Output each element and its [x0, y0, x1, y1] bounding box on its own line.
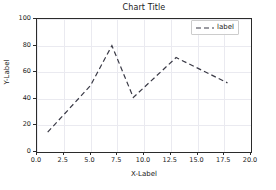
- x-tick-label: 10.0: [128, 156, 158, 164]
- plot-area: [36, 18, 252, 153]
- x-tick-label: 7.5: [101, 156, 131, 164]
- x-tick-label: 17.5: [208, 156, 238, 164]
- x-tick-label: 20.0: [235, 156, 265, 164]
- x-axis-label: X-Label: [36, 170, 252, 178]
- x-tick-mark: [143, 152, 144, 155]
- y-tick-label: 100: [1, 14, 31, 22]
- series-layer: [37, 19, 251, 152]
- x-tick-label: 2.5: [48, 156, 78, 164]
- x-tick-label: 0.0: [21, 156, 51, 164]
- x-tick-mark: [170, 152, 171, 155]
- page-title: Chart Title: [36, 3, 252, 12]
- dashed-line-sample-icon: [196, 25, 214, 31]
- x-tick-mark: [36, 152, 37, 155]
- x-tick-mark: [197, 152, 198, 155]
- y-tick-label: 20: [1, 120, 31, 128]
- x-tick-label: 12.5: [155, 156, 185, 164]
- y-tick-mark: [33, 124, 36, 125]
- y-tick-label: 0: [1, 147, 31, 155]
- chart-figure: Chart Title 020406080100 0.02.55.07.510.…: [0, 0, 276, 190]
- chart-legend: label: [191, 20, 239, 35]
- x-tick-mark: [90, 152, 91, 155]
- y-tick-mark: [33, 71, 36, 72]
- x-tick-label: 5.0: [75, 156, 105, 164]
- x-tick-mark: [223, 152, 224, 155]
- y-axis-label: Y-Label: [3, 37, 11, 107]
- series-line: [48, 46, 228, 132]
- gridline-vertical: [251, 19, 252, 152]
- x-tick-mark: [116, 152, 117, 155]
- y-tick-mark: [33, 18, 36, 19]
- y-tick-mark: [33, 45, 36, 46]
- y-tick-mark: [33, 98, 36, 99]
- x-tick-mark: [250, 152, 251, 155]
- x-tick-mark: [63, 152, 64, 155]
- gridline-horizontal: [37, 152, 251, 153]
- legend-entry-label: label: [217, 24, 234, 31]
- x-tick-label: 15.0: [182, 156, 212, 164]
